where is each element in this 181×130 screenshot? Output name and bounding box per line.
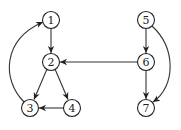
node-5: 5 [138,12,155,29]
node-4: 4 [64,100,81,117]
node-6: 6 [138,54,155,71]
graph-canvas: 1 2 3 4 5 6 7 [0,0,181,130]
svg-text:2: 2 [48,56,55,69]
svg-text:6: 6 [143,56,150,69]
node-1: 1 [43,12,60,29]
node-3: 3 [22,100,39,117]
svg-text:7: 7 [143,102,150,115]
edge-2-4 [55,69,68,100]
svg-text:3: 3 [27,102,34,115]
svg-text:5: 5 [143,14,150,27]
node-7: 7 [138,100,155,117]
svg-text:4: 4 [69,102,76,115]
graph-diagram: 1 2 3 4 5 6 7 [0,0,181,130]
svg-text:1: 1 [48,14,55,27]
edge-2-3 [34,69,47,100]
node-2: 2 [43,54,60,71]
